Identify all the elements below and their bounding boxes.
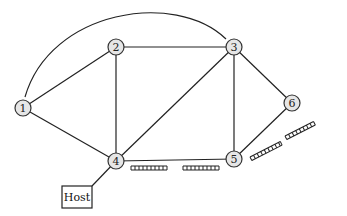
network-diagram: Host 1 2 3 4 5 6	[0, 0, 347, 216]
node-1: 1	[15, 100, 31, 116]
node-5: 5	[226, 151, 242, 167]
queue-5-6-near-5	[250, 142, 282, 161]
host-label: Host	[64, 191, 91, 204]
host-node: Host	[62, 186, 92, 208]
node-4: 4	[108, 153, 124, 169]
node-3: 3	[226, 39, 242, 55]
queue-4-5-near-5	[183, 166, 219, 170]
edge-1-4	[23, 108, 116, 161]
node-6-label: 6	[289, 97, 296, 110]
node-3-label: 3	[231, 41, 238, 54]
node-6: 6	[284, 95, 300, 111]
node-1-label: 1	[20, 102, 27, 115]
node-5-label: 5	[231, 153, 238, 166]
edge-3-6	[234, 47, 292, 103]
node-2: 2	[108, 39, 124, 55]
node-4-label: 4	[113, 155, 120, 168]
edge-4-5	[116, 159, 234, 161]
edge-3-4	[116, 47, 234, 161]
queue-5-6-near-6	[285, 121, 315, 139]
edge-1-2	[23, 47, 116, 108]
node-2-label: 2	[113, 41, 120, 54]
queue-4-5-near-4	[131, 166, 167, 170]
